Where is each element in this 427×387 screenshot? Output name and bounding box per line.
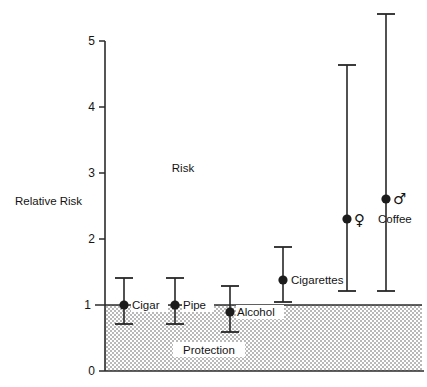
y-tick-label-1: 1 [84, 298, 91, 312]
female-symbol-icon: ♀ [354, 211, 365, 229]
alcohol-marker [225, 307, 234, 316]
protection-region-label: Protection [183, 344, 235, 356]
cigar-marker [119, 300, 128, 309]
coffee-male-marker [381, 194, 390, 203]
y-tick-label-3: 3 [88, 166, 95, 180]
y-axis-ticks [95, 41, 105, 371]
chart-canvas: 5 4 3 2 1 0 Relative Risk Risk Protectio… [0, 0, 427, 387]
relative-risk-chart: 5 4 3 2 1 0 Relative Risk Risk Protectio… [0, 0, 427, 387]
y-tick-label-2: 2 [88, 232, 95, 246]
coffee-female-marker [342, 214, 351, 223]
y-axis-title: Relative Risk [15, 195, 82, 207]
datapoint-coffee-male[interactable]: ♂ Coffee [377, 14, 412, 291]
datapoint-cigarettes[interactable]: Cigarettes [274, 247, 344, 302]
cigarettes-label: Cigarettes [291, 274, 344, 286]
y-tick-label-5: 5 [88, 34, 95, 48]
male-symbol-icon: ♂ [393, 190, 406, 208]
cigarettes-marker [278, 275, 287, 284]
pipe-marker [170, 300, 179, 309]
cigar-label: Cigar [132, 299, 160, 311]
y-tick-label-0: 0 [88, 364, 95, 378]
datapoint-coffee-female[interactable]: ♀ [338, 65, 365, 291]
y-tick-label-4: 4 [88, 100, 95, 114]
alcohol-label: Alcohol [237, 306, 275, 318]
pipe-label: Pipe [183, 299, 206, 311]
coffee-label: Coffee [378, 213, 412, 225]
risk-region-label: Risk [172, 162, 195, 174]
y-axis-tick-labels: 5 4 3 2 1 0 [84, 34, 95, 378]
